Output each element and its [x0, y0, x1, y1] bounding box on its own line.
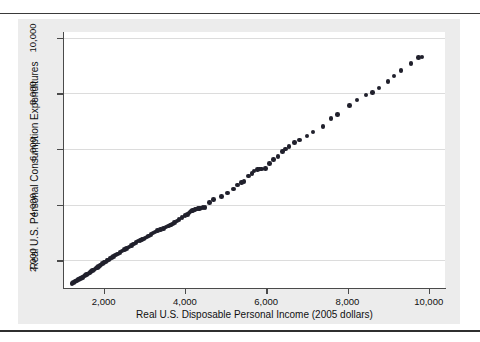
scatter-point — [219, 194, 224, 199]
scatter-point — [263, 166, 268, 171]
scatter-point — [225, 191, 230, 196]
scatter-point — [409, 61, 414, 66]
x-axis-tick-label: 8,000 — [318, 296, 378, 307]
gridline-horizontal — [64, 38, 445, 39]
x-axis-tick — [185, 289, 186, 294]
scatter-point — [242, 179, 247, 184]
x-axis-title: Real U.S. Disposable Personal Income (20… — [63, 309, 446, 320]
x-axis-line — [63, 288, 446, 289]
x-axis-tick-label: 6,000 — [236, 296, 296, 307]
x-axis-tick-label: 2,000 — [74, 296, 134, 307]
x-axis-tick-label: 4,000 — [155, 296, 215, 307]
scatter-point — [329, 116, 334, 121]
y-axis-title: Real U.S. Personal Consumption Expenditu… — [29, 36, 40, 296]
scatter-point — [420, 55, 425, 60]
bottom-divider-rule — [0, 330, 480, 332]
scatter-point — [267, 161, 272, 166]
scatter-point — [292, 140, 297, 145]
gridline-horizontal — [64, 260, 445, 261]
scatter-point — [370, 90, 375, 95]
gridline-horizontal — [64, 205, 445, 206]
gridline-horizontal — [64, 93, 445, 94]
x-axis-tick — [104, 289, 105, 294]
scatter-point — [203, 205, 208, 210]
scatter-point — [297, 138, 302, 143]
gridline-horizontal — [64, 149, 445, 150]
y-axis-line — [63, 32, 64, 289]
scatter-point — [399, 68, 404, 73]
scatter-point — [347, 103, 352, 108]
scatter-point — [271, 157, 276, 162]
top-divider-rule — [0, 13, 480, 14]
scatter-point — [211, 197, 216, 202]
scatter-point — [287, 144, 292, 149]
x-axis-tick-label: 10,000 — [399, 296, 459, 307]
x-axis-tick — [429, 289, 430, 294]
x-axis-tick — [348, 289, 349, 294]
scatter-point — [335, 112, 340, 117]
x-axis-tick — [266, 289, 267, 294]
